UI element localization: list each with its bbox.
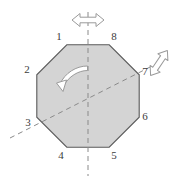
vertex-label-8: 8 bbox=[111, 30, 117, 42]
vertex-label-5: 5 bbox=[111, 149, 117, 161]
vertex-label-2: 2 bbox=[24, 63, 30, 75]
vertex-label-3: 3 bbox=[25, 116, 31, 128]
figure-canvas: 1 2 3 4 5 6 7 8 bbox=[0, 0, 177, 181]
octagon-symmetry-figure: 1 2 3 4 5 6 7 8 bbox=[0, 0, 177, 181]
vertex-label-1: 1 bbox=[56, 30, 62, 42]
vertex-label-6: 6 bbox=[142, 110, 148, 122]
vertex-label-4: 4 bbox=[58, 149, 64, 161]
diagonal-double-arrow bbox=[146, 47, 173, 79]
vertex-label-7: 7 bbox=[142, 65, 148, 77]
